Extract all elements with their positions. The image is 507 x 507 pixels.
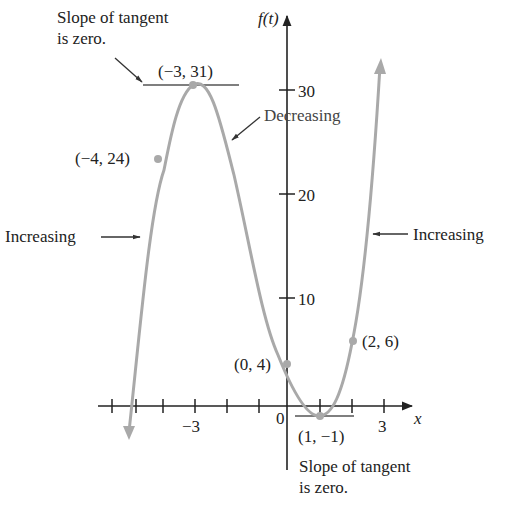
- decreasing-label: Decreasing: [264, 106, 341, 125]
- y-axis-label: f(t): [258, 9, 279, 28]
- point-2-6: [349, 337, 357, 345]
- slope-top-arrow: [115, 58, 142, 82]
- curve-arrow-down-icon: [123, 426, 135, 440]
- slope-top-text-line2: is zero.: [57, 29, 106, 48]
- increasing-right-label: Increasing: [413, 225, 484, 244]
- increasing-left-label: Increasing: [5, 227, 76, 246]
- y-tick-30: 30: [298, 82, 315, 101]
- slope-top-text-line1: Slope of tangent: [57, 8, 169, 27]
- function-graph: f(t) x 30 20 10 −3 0 3 Slope of tangent …: [0, 0, 507, 507]
- point-1-m1: [316, 412, 324, 420]
- point-0-4: [283, 360, 291, 368]
- y-tick-10: 10: [298, 290, 315, 309]
- point-label-m3-31: (−3, 31): [158, 62, 213, 81]
- decreasing-arrow: [232, 117, 260, 140]
- x-axis-label: x: [413, 409, 422, 428]
- point-m4-24: [154, 155, 162, 163]
- slope-bottom-text-line2: is zero.: [299, 478, 348, 497]
- point-label-1-m1: (1, −1): [298, 427, 344, 446]
- point-label-2-6: (2, 6): [362, 332, 399, 351]
- x-tick-0: 0: [276, 409, 285, 428]
- curve-arrow-up-icon: [374, 58, 386, 74]
- x-tick-m3: −3: [182, 417, 200, 436]
- point-label-m4-24: (−4, 24): [75, 149, 130, 168]
- point-m3-31: [189, 81, 197, 89]
- point-label-0-4: (0, 4): [234, 355, 271, 374]
- slope-bottom-text-line1: Slope of tangent: [299, 457, 411, 476]
- y-tick-20: 20: [298, 186, 315, 205]
- x-tick-3: 3: [378, 417, 387, 436]
